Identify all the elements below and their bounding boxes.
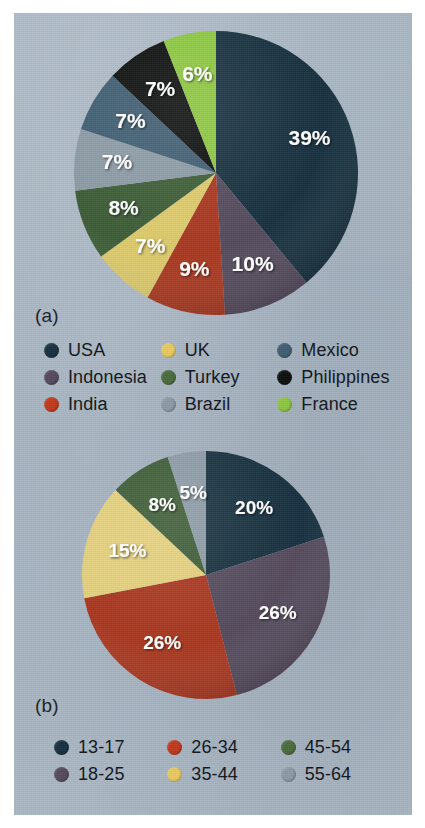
legend-swatch-icon	[167, 767, 182, 782]
pie-slice-label: 15%	[108, 540, 146, 561]
panel-label-a: (a)	[35, 305, 59, 327]
legend-swatch-icon	[54, 740, 69, 755]
pie-a-svg: 39%10%9%7%8%7%7%7%6%	[66, 23, 366, 323]
legend-b-item[interactable]: 18-25	[54, 762, 167, 787]
legend-swatch-icon	[44, 370, 59, 385]
pie-slice-label: 20%	[235, 497, 273, 518]
legend-swatch-icon	[281, 767, 296, 782]
legend-label: Indonesia	[68, 367, 147, 388]
legend-b-item[interactable]: 26-34	[167, 735, 280, 760]
legend-a-item[interactable]: France	[277, 392, 394, 417]
pie-slice-label: 8%	[148, 494, 176, 515]
pie-slice-label: 7%	[102, 150, 133, 173]
legend-label: 35-44	[191, 764, 238, 785]
pie-slice-label: 7%	[115, 109, 146, 132]
legend-a-item[interactable]: India	[44, 392, 161, 417]
legend-swatch-icon	[161, 343, 176, 358]
legend-b-item[interactable]: 55-64	[281, 762, 394, 787]
legend-label: 26-34	[191, 737, 238, 758]
legend-swatch-icon	[281, 740, 296, 755]
pie-chart-b: 20%26%26%15%8%5%	[70, 439, 342, 711]
legend-swatch-icon	[44, 397, 59, 412]
legend-a-item[interactable]: Brazil	[161, 392, 278, 417]
legend-a-item[interactable]: Turkey	[161, 365, 278, 390]
pie-slice-label: 7%	[135, 234, 166, 257]
legend-swatch-icon	[167, 740, 182, 755]
legend-swatch-icon	[161, 370, 176, 385]
pie-slice-label: 9%	[179, 257, 210, 280]
pie-slice-label: 6%	[182, 62, 213, 85]
legend-label: UK	[185, 340, 210, 361]
legend-swatch-icon	[277, 397, 292, 412]
figure-root: 39%10%9%7%8%7%7%7%6% (a) USAUKMexicoIndo…	[0, 0, 425, 828]
legend-a-item[interactable]: Indonesia	[44, 365, 161, 390]
pie-slice-label: 26%	[259, 602, 297, 623]
pie-slice-label: 26%	[143, 632, 181, 653]
pie-slice-label: 5%	[179, 482, 207, 503]
pie-slice-label: 7%	[145, 77, 176, 100]
legend-label: India	[68, 394, 108, 415]
legend-swatch-icon	[54, 767, 69, 782]
legend-b: 13-1726-3445-5418-2535-4455-64	[54, 735, 394, 787]
legend-a-item[interactable]: Mexico	[277, 338, 394, 363]
legend-a: USAUKMexicoIndonesiaTurkeyPhilippinesInd…	[44, 338, 394, 417]
panel-label-b: (b)	[35, 695, 59, 717]
legend-label: 18-25	[78, 764, 125, 785]
legend-b-item[interactable]: 13-17	[54, 735, 167, 760]
legend-label: Turkey	[185, 367, 240, 388]
pie-slice-label: 39%	[289, 126, 331, 149]
legend-label: USA	[68, 340, 105, 361]
figure-panel: 39%10%9%7%8%7%7%7%6% (a) USAUKMexicoIndo…	[14, 13, 412, 815]
legend-swatch-icon	[277, 370, 292, 385]
legend-label: Brazil	[185, 394, 231, 415]
legend-label: Mexico	[301, 340, 359, 361]
legend-a-item[interactable]: USA	[44, 338, 161, 363]
legend-label: France	[301, 394, 358, 415]
legend-a-item[interactable]: Philippines	[277, 365, 394, 390]
legend-a-item[interactable]: UK	[161, 338, 278, 363]
pie-b-svg: 20%26%26%15%8%5%	[70, 439, 342, 711]
legend-swatch-icon	[44, 343, 59, 358]
legend-b-item[interactable]: 35-44	[167, 762, 280, 787]
legend-label: Philippines	[301, 367, 389, 388]
legend-b-item[interactable]: 45-54	[281, 735, 394, 760]
pie-slice-label: 10%	[232, 252, 274, 275]
legend-label: 13-17	[78, 737, 125, 758]
legend-label: 55-64	[305, 764, 352, 785]
legend-swatch-icon	[161, 397, 176, 412]
legend-label: 45-54	[305, 737, 352, 758]
pie-chart-a: 39%10%9%7%8%7%7%7%6%	[66, 23, 366, 323]
pie-slice-label: 8%	[108, 196, 139, 219]
legend-swatch-icon	[277, 343, 292, 358]
